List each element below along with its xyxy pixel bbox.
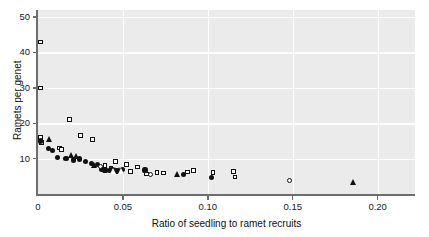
y-axis-tick xyxy=(33,52,37,53)
data-point-open-triangle xyxy=(118,168,124,174)
x-axis-tick-label: 0.15 xyxy=(273,202,313,212)
scatter-plot-figure: Ramets per genet Ratio of seedling to ra… xyxy=(0,0,429,237)
x-axis-tick-label: 0 xyxy=(18,202,58,212)
data-point-filled-circle xyxy=(181,172,186,177)
gridline-vertical xyxy=(293,10,294,194)
data-point-open-square xyxy=(124,162,129,167)
gridline-horizontal xyxy=(38,159,415,160)
data-point-filled-circle xyxy=(142,167,147,172)
data-point-open-square xyxy=(155,170,160,175)
data-point-filled-circle xyxy=(50,148,55,153)
data-point-filled-circle xyxy=(55,155,60,160)
data-point-open-square xyxy=(128,169,133,174)
gridline-horizontal xyxy=(38,52,415,53)
data-point-filled-triangle xyxy=(73,153,79,159)
data-point-open-square xyxy=(113,159,118,164)
data-point-open-square xyxy=(38,86,43,91)
data-point-filled-triangle xyxy=(91,162,97,168)
gridline-horizontal xyxy=(38,17,415,18)
x-axis-tick xyxy=(292,196,293,200)
data-point-open-square xyxy=(191,168,196,173)
data-point-filled-triangle xyxy=(46,136,52,142)
gridline-vertical xyxy=(378,10,379,194)
x-axis-line xyxy=(36,194,415,196)
data-point-filled-triangle xyxy=(174,171,180,177)
y-axis-tick xyxy=(33,123,37,124)
data-point-open-circle xyxy=(287,178,292,183)
data-point-open-square xyxy=(38,40,43,45)
y-axis-tick-label: 50 xyxy=(2,12,30,22)
data-point-open-square xyxy=(161,171,166,176)
x-axis-tick-label: 0.10 xyxy=(188,202,228,212)
x-axis-tick xyxy=(377,196,378,200)
y-axis-tick-label: 30 xyxy=(2,83,30,93)
y-axis-line xyxy=(36,10,38,196)
data-point-open-square xyxy=(67,117,72,122)
data-point-open-square xyxy=(90,137,95,142)
y-axis-tick xyxy=(33,16,37,17)
data-point-filled-circle xyxy=(209,175,214,180)
data-point-filled-triangle xyxy=(350,179,356,185)
gridline-vertical xyxy=(208,10,209,194)
data-point-open-triangle xyxy=(110,168,116,174)
data-point-filled-circle xyxy=(83,159,88,164)
data-point-filled-circle xyxy=(38,138,43,143)
y-axis-tick xyxy=(33,158,37,159)
y-axis-tick-label: 10 xyxy=(2,154,30,164)
gridline-horizontal xyxy=(38,88,415,89)
x-axis-tick-label: 0.20 xyxy=(358,202,398,212)
data-point-open-square xyxy=(231,169,236,174)
x-axis-tick-label: 0.05 xyxy=(103,202,143,212)
data-point-open-square xyxy=(185,170,190,175)
data-point-open-square xyxy=(233,175,238,180)
x-axis-title: Ratio of seedling to ramet recruits xyxy=(132,218,322,229)
y-axis-tick-label: 40 xyxy=(2,47,30,57)
data-point-open-circle xyxy=(148,172,153,177)
y-axis-tick xyxy=(33,87,37,88)
data-point-open-square xyxy=(135,165,140,170)
plot-panel xyxy=(38,10,415,194)
y-axis-tick-label: 20 xyxy=(2,118,30,128)
data-point-open-square xyxy=(78,133,83,138)
x-axis-tick xyxy=(207,196,208,200)
x-axis-tick xyxy=(122,196,123,200)
data-point-open-square xyxy=(59,147,64,152)
gridline-horizontal xyxy=(38,123,415,124)
